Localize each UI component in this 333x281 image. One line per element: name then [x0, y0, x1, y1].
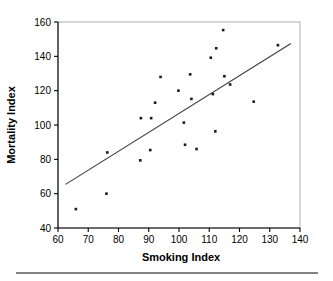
data-point: [222, 29, 225, 32]
x-tick-label: 100: [171, 234, 188, 245]
data-point: [177, 89, 180, 92]
scatter-plot: 406080100120140160 607080901001101201301…: [0, 0, 333, 281]
x-tick-label: 120: [231, 234, 248, 245]
data-point: [159, 76, 162, 79]
data-point: [190, 98, 193, 101]
x-axis-title: Smoking Index: [142, 251, 221, 263]
x-tick-label: 130: [261, 234, 278, 245]
data-point: [140, 117, 143, 120]
data-point: [212, 93, 215, 96]
data-point: [223, 75, 226, 78]
x-tick-label: 80: [113, 234, 125, 245]
plot-area: [58, 22, 300, 228]
data-point: [105, 192, 108, 195]
x-tick-label: 70: [83, 234, 95, 245]
y-tick-label: 40: [40, 223, 52, 234]
data-point: [209, 56, 212, 59]
data-point: [195, 148, 198, 151]
data-point: [252, 100, 255, 103]
plot-frame: [58, 22, 300, 228]
y-axis-title: Mortality Index: [5, 85, 17, 164]
data-point: [184, 143, 187, 146]
data-point: [277, 44, 280, 47]
figure-container: 406080100120140160 607080901001101201301…: [0, 0, 333, 281]
data-point: [139, 159, 142, 162]
x-tick-label: 140: [292, 234, 309, 245]
y-tick-label: 80: [40, 154, 52, 165]
x-tick-label: 110: [201, 234, 217, 245]
data-point: [183, 121, 186, 124]
data-point: [154, 101, 157, 104]
y-tick-label: 120: [34, 85, 51, 96]
data-point: [214, 130, 217, 133]
x-tick-label: 90: [143, 234, 155, 245]
y-tick-label: 60: [40, 188, 52, 199]
x-tick-label: 60: [52, 234, 64, 245]
y-tick-label: 160: [34, 17, 51, 28]
data-point: [215, 47, 218, 50]
data-point: [150, 117, 153, 120]
data-point: [75, 208, 78, 211]
data-point: [106, 151, 109, 154]
data-point: [229, 83, 232, 86]
y-tick-label: 100: [34, 120, 51, 131]
data-point: [189, 73, 192, 76]
data-point: [149, 149, 152, 152]
y-tick-label: 140: [34, 51, 51, 62]
